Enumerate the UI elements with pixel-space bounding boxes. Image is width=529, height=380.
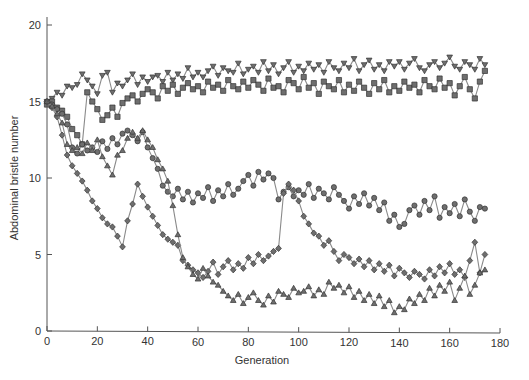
data-point — [341, 198, 346, 203]
data-point — [382, 200, 387, 205]
data-point — [94, 92, 100, 97]
data-point — [281, 90, 286, 95]
data-point — [422, 198, 427, 203]
data-point — [115, 114, 120, 119]
data-point — [175, 232, 181, 237]
data-point — [175, 186, 180, 191]
data-point — [226, 77, 231, 82]
data-point — [336, 192, 341, 197]
data-point — [150, 213, 156, 219]
data-point — [185, 66, 191, 71]
data-point — [402, 79, 407, 84]
data-point — [311, 230, 317, 236]
data-point — [236, 87, 241, 92]
data-point — [316, 287, 322, 292]
data-point — [457, 84, 462, 89]
data-point — [457, 214, 462, 219]
data-point — [472, 67, 478, 72]
data-point — [377, 87, 382, 92]
data-point — [140, 193, 146, 199]
data-point — [155, 166, 160, 171]
data-point — [165, 178, 171, 183]
data-point — [120, 244, 126, 250]
data-point — [231, 192, 236, 197]
data-point — [65, 114, 70, 119]
data-point — [210, 259, 216, 265]
data-point — [105, 146, 110, 151]
data-point — [291, 285, 297, 290]
data-point — [74, 83, 80, 88]
data-point — [100, 139, 105, 144]
data-point — [110, 90, 116, 95]
data-point — [281, 291, 287, 296]
data-point — [407, 296, 413, 301]
data-point — [372, 81, 377, 86]
data-point — [467, 258, 473, 264]
data-point — [367, 203, 372, 208]
data-point — [412, 203, 417, 208]
data-point — [397, 88, 402, 93]
data-point — [472, 218, 477, 223]
data-point — [155, 222, 161, 228]
data-point — [165, 88, 170, 93]
data-point — [447, 261, 453, 267]
data-point — [135, 181, 141, 187]
data-point — [301, 69, 307, 74]
data-point — [432, 87, 437, 92]
plot-area — [44, 55, 488, 315]
data-point — [266, 76, 271, 81]
data-point — [351, 57, 357, 62]
data-point — [341, 90, 346, 95]
data-point — [301, 74, 306, 79]
x-axis-line — [47, 331, 500, 333]
data-point — [200, 90, 205, 95]
data-point — [321, 70, 327, 75]
data-point — [432, 194, 437, 199]
data-point — [211, 85, 216, 90]
data-point — [276, 84, 281, 89]
data-point — [387, 90, 392, 95]
data-point — [195, 84, 200, 89]
data-point — [362, 191, 367, 196]
data-point — [371, 67, 377, 72]
data-point — [155, 96, 160, 101]
data-point — [346, 82, 351, 87]
data-point — [256, 169, 261, 174]
data-point — [105, 113, 110, 118]
data-point — [75, 133, 80, 138]
data-point — [205, 79, 210, 84]
series-circle — [44, 99, 487, 230]
data-point — [427, 285, 433, 290]
data-point — [291, 81, 296, 86]
data-point — [276, 288, 282, 293]
data-point — [195, 191, 200, 196]
data-point — [417, 90, 422, 95]
x-tick-label: 0 — [44, 335, 50, 347]
data-point — [467, 87, 472, 92]
data-point — [482, 267, 488, 272]
data-point — [205, 185, 210, 190]
y-tick-label: 10 — [29, 172, 41, 184]
data-point — [200, 265, 206, 270]
data-point — [215, 282, 221, 287]
data-point — [477, 204, 482, 209]
data-point — [110, 105, 115, 110]
data-point — [145, 137, 151, 142]
data-point — [407, 208, 412, 213]
data-point — [376, 293, 382, 298]
data-point — [190, 87, 195, 92]
data-point — [200, 195, 205, 200]
data-point — [316, 91, 321, 96]
data-point — [346, 66, 352, 71]
data-point — [306, 85, 311, 90]
data-point — [412, 82, 417, 87]
data-point — [266, 171, 271, 176]
data-point — [417, 291, 423, 296]
data-point — [170, 239, 176, 245]
data-point — [396, 304, 402, 309]
data-point — [90, 99, 95, 104]
data-point — [402, 307, 408, 312]
data-point — [256, 82, 261, 87]
series-square — [44, 68, 487, 147]
data-point — [467, 291, 473, 296]
